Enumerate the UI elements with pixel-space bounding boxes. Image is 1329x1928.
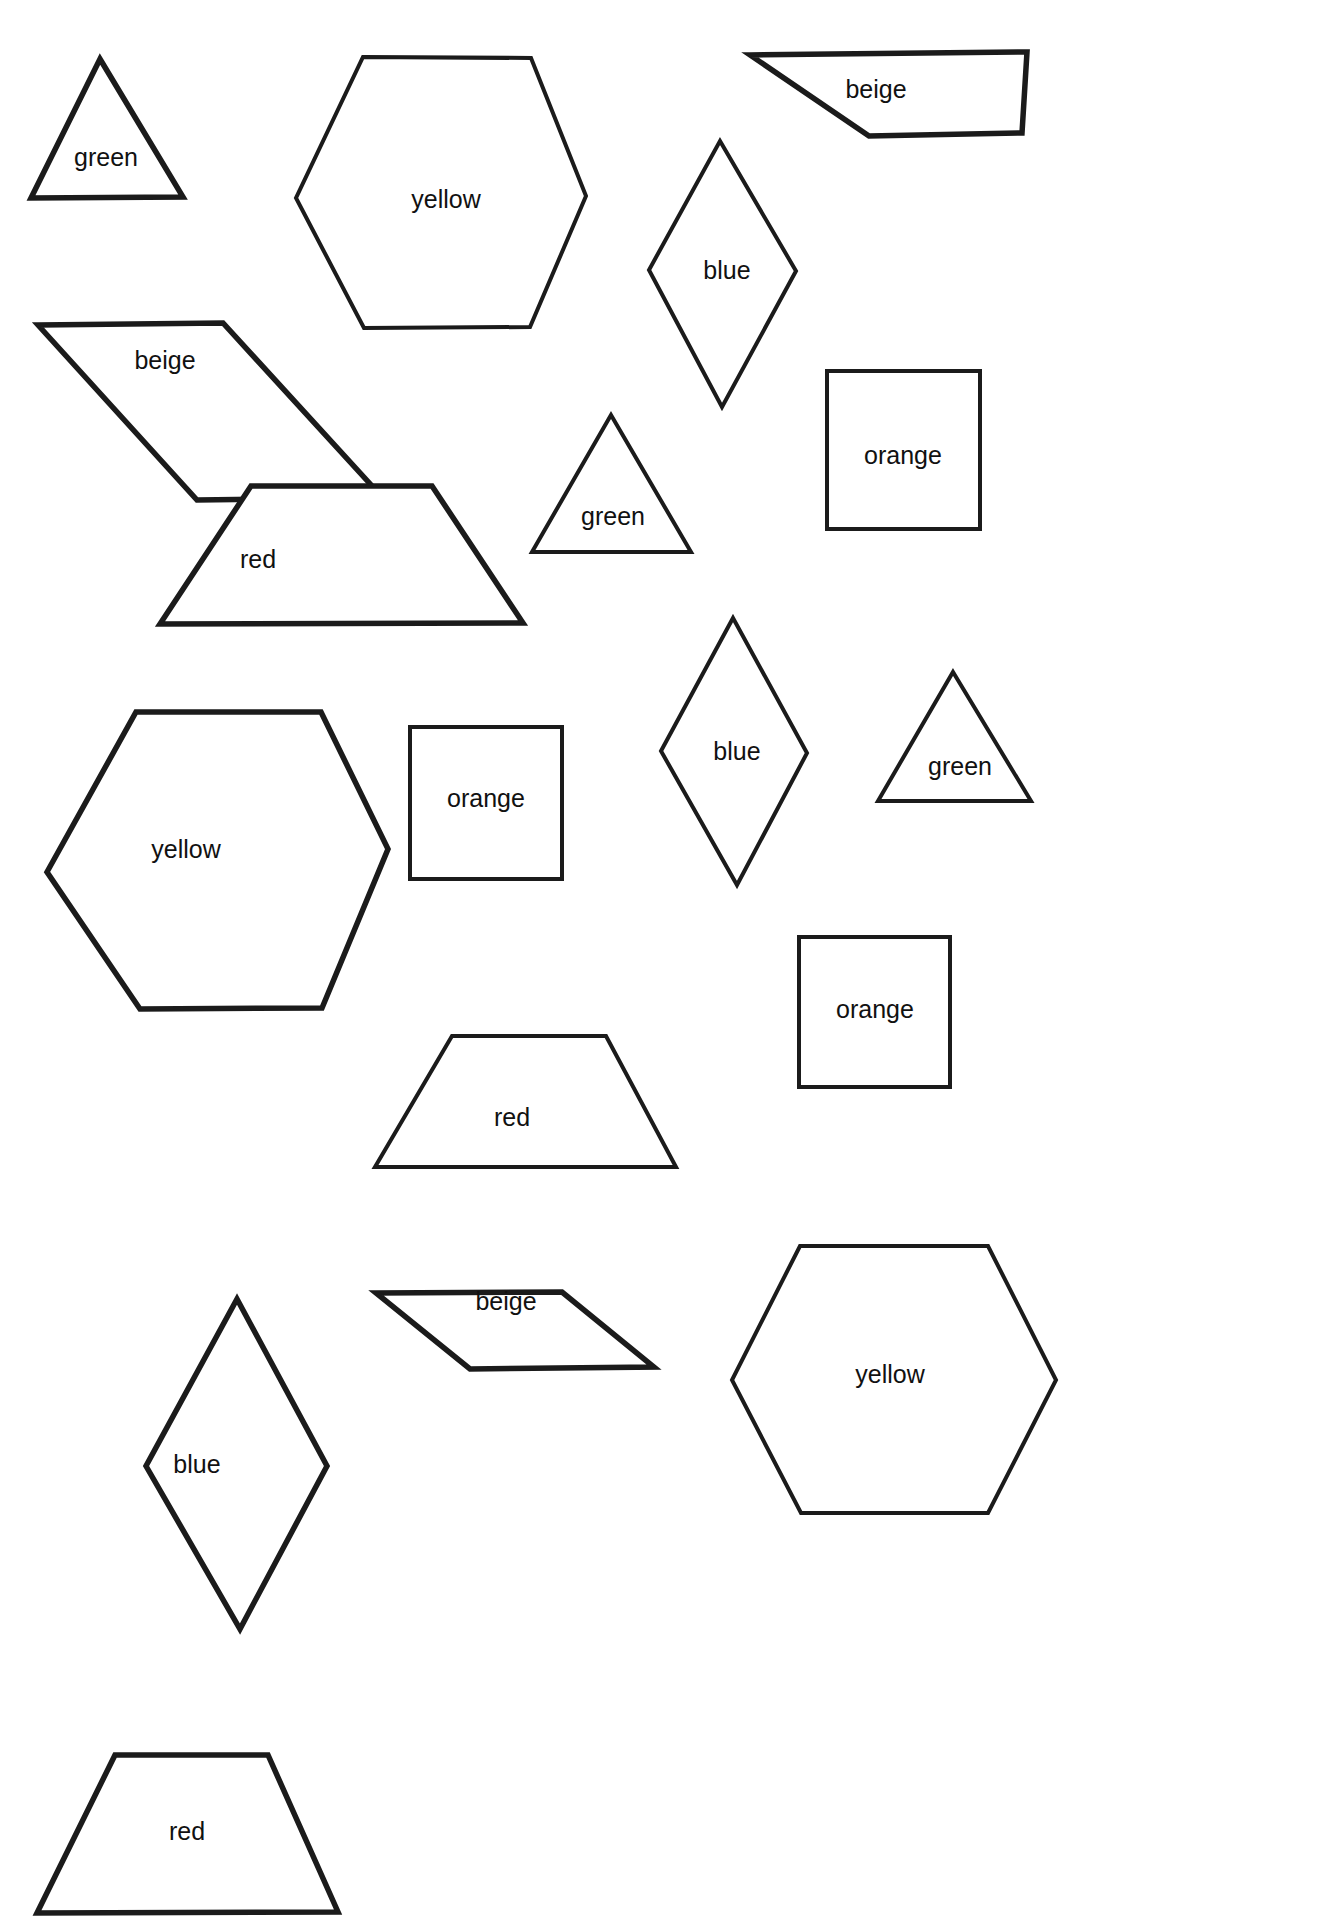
shape-hexagon-yellow-bottom-right-label: yellow: [855, 1360, 925, 1388]
shape-rhombus-blue-lower-left-label: blue: [173, 1450, 220, 1478]
shape-layer: greenyellowbeigebluebeigeorangeredgreeny…: [31, 52, 1056, 1913]
shape-trapezoid-red-bottom-left-label: red: [169, 1817, 205, 1845]
shape-parallelogram-beige-left: beige: [38, 323, 383, 500]
shape-hexagon-yellow-top-label: yellow: [411, 185, 481, 213]
shape-rhombus-blue-lower-left: blue: [146, 1299, 327, 1629]
shape-triangle-green-center-label: green: [581, 502, 645, 530]
shape-parallelogram-beige-bottom: beige: [376, 1287, 654, 1369]
shape-triangle-green-top-left: green: [31, 59, 183, 198]
shape-parallelogram-beige-top-right-label: beige: [845, 75, 906, 103]
shape-hexagon-yellow-bottom-right: yellow: [732, 1246, 1056, 1513]
shape-parallelogram-beige-left-label: beige: [134, 346, 195, 374]
shape-hexagon-yellow-top: yellow: [296, 57, 586, 328]
shapes-canvas: greenyellowbeigebluebeigeorangeredgreeny…: [0, 0, 1329, 1928]
shape-hexagon-yellow-middle-left: yellow: [47, 712, 388, 1009]
shape-square-orange-middle: orange: [410, 727, 562, 879]
shape-rhombus-blue-middle-label: blue: [713, 737, 760, 765]
shape-square-orange-lower-right-label: orange: [836, 995, 914, 1023]
shape-parallelogram-beige-bottom-label: beige: [475, 1287, 536, 1315]
shape-triangle-green-middle-right: green: [878, 672, 1031, 801]
shape-triangle-green-top-left-outline: [31, 59, 183, 198]
shape-trapezoid-red-lower-middle-label: red: [494, 1103, 530, 1131]
shape-triangle-green-center-outline: [532, 415, 691, 552]
shape-parallelogram-beige-top-right: beige: [750, 52, 1027, 136]
shape-trapezoid-red-lower-middle-outline: [375, 1036, 676, 1167]
shape-triangle-green-center: green: [532, 415, 691, 552]
shape-parallelogram-beige-left-outline: [38, 323, 383, 500]
shape-triangle-green-middle-right-outline: [878, 672, 1031, 801]
shape-triangle-green-middle-right-label: green: [928, 752, 992, 780]
shape-square-orange-top-right-label: orange: [864, 441, 942, 469]
shapes-diagram: greenyellowbeigebluebeigeorangeredgreeny…: [0, 0, 1329, 1928]
shape-triangle-green-top-left-label: green: [74, 143, 138, 171]
shape-trapezoid-red-lower-middle: red: [375, 1036, 676, 1167]
shape-trapezoid-red-upper-left: red: [160, 486, 523, 624]
shape-square-orange-middle-label: orange: [447, 784, 525, 812]
shape-square-orange-top-right: orange: [827, 371, 980, 529]
shape-rhombus-blue-middle: blue: [661, 618, 807, 885]
shape-trapezoid-red-upper-left-label: red: [240, 545, 276, 573]
shape-square-orange-lower-right: orange: [799, 937, 950, 1087]
shape-trapezoid-red-bottom-left: red: [37, 1755, 338, 1913]
shape-hexagon-yellow-middle-left-label: yellow: [151, 835, 221, 863]
shape-rhombus-blue-top: blue: [649, 141, 796, 407]
shape-trapezoid-red-upper-left-outline: [160, 486, 523, 624]
shape-rhombus-blue-top-label: blue: [703, 256, 750, 284]
